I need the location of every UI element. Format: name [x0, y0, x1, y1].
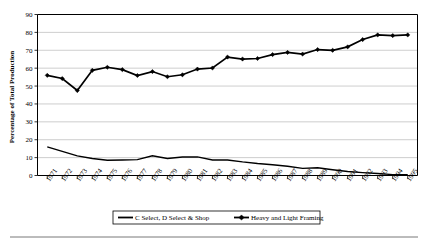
- data-point-marker: [406, 33, 410, 37]
- gridlines: [35, 15, 418, 176]
- data-point-marker: [300, 52, 304, 56]
- y-axis-tick-labels: 0102030405060708090: [26, 11, 34, 180]
- data-point-marker: [165, 75, 169, 79]
- line-chart: 0102030405060708090 19711972197319741975…: [0, 0, 428, 244]
- data-point-marker: [285, 50, 289, 54]
- legend-label: C Select, D Select & Shop: [135, 214, 210, 222]
- chart-figure: 0102030405060708090 19711972197319741975…: [0, 0, 428, 244]
- y-tick-label: 0: [29, 172, 33, 180]
- data-point-marker: [195, 67, 199, 71]
- data-point-marker: [331, 48, 335, 52]
- x-tick-label: 1972: [60, 167, 75, 183]
- x-tick-label: 1991: [345, 167, 360, 183]
- x-tick-label: 1983: [225, 167, 240, 183]
- y-axis-title: Percentage of Total Production: [8, 51, 16, 144]
- x-tick-label: 1987: [285, 167, 300, 183]
- x-tick-label: 1973: [75, 167, 90, 183]
- data-point-marker: [150, 69, 154, 73]
- y-tick-label: 50: [26, 83, 34, 91]
- x-tick-label: 1982: [210, 167, 225, 183]
- x-tick-label: 1976: [120, 167, 135, 183]
- data-point-marker: [376, 33, 380, 37]
- x-tick-label: 1977: [135, 167, 150, 183]
- series-line-2: [47, 35, 407, 91]
- data-point-marker: [270, 52, 274, 56]
- x-tick-label: 1975: [105, 167, 120, 183]
- legend-label: Heavy and Light Framing: [251, 214, 324, 222]
- data-point-marker: [105, 65, 109, 69]
- data-point-marker: [255, 56, 259, 60]
- x-tick-label: 1980: [180, 167, 195, 183]
- y-tick-label: 40: [26, 100, 34, 108]
- data-point-marker: [316, 47, 320, 51]
- axes: [38, 15, 418, 176]
- x-tick-label: 1981: [195, 167, 210, 183]
- x-tick-label: 1971: [45, 167, 60, 183]
- y-tick-label: 70: [26, 47, 34, 55]
- data-point-marker: [180, 73, 184, 77]
- x-tick-label: 1992: [360, 167, 375, 183]
- x-tick-label: 1986: [270, 167, 285, 183]
- x-tick-label: 1988: [300, 167, 315, 183]
- y-tick-label: 20: [26, 136, 34, 144]
- data-point-marker: [45, 73, 49, 77]
- data-point-marker: [240, 57, 244, 61]
- x-tick-label: 1979: [165, 167, 180, 183]
- y-tick-label: 60: [26, 65, 34, 73]
- x-tick-label: 1974: [90, 167, 105, 183]
- y-tick-label: 90: [26, 11, 34, 19]
- x-tick-label: 1978: [150, 167, 165, 183]
- data-point-marker: [391, 34, 395, 38]
- chart-legend: C Select, D Select & ShopHeavy and Light…: [113, 211, 324, 224]
- x-tick-label: 1985: [255, 167, 270, 183]
- y-tick-label: 30: [26, 118, 34, 126]
- x-axis-tick-labels: 1971197219731974197519761977197819791980…: [45, 167, 420, 183]
- y-tick-label: 80: [26, 29, 34, 37]
- x-tick-label: 1984: [240, 167, 255, 183]
- y-tick-label: 10: [26, 154, 34, 162]
